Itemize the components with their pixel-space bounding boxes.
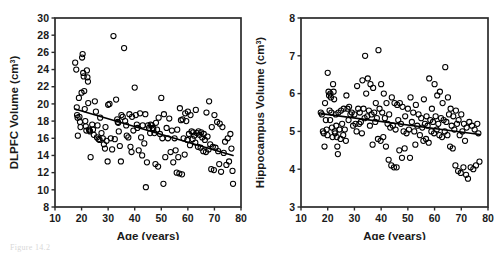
data-point xyxy=(373,100,378,105)
data-point xyxy=(427,76,432,81)
data-point xyxy=(337,127,342,132)
data-point xyxy=(462,138,467,143)
data-point xyxy=(132,85,137,90)
y-tick-label: 7 xyxy=(289,50,295,62)
data-point xyxy=(397,148,402,153)
data-point xyxy=(370,142,375,147)
data-point xyxy=(173,148,178,153)
data-point xyxy=(429,106,434,111)
data-point xyxy=(381,91,386,96)
data-point xyxy=(230,181,235,186)
data-point xyxy=(461,165,466,170)
data-point xyxy=(408,95,413,100)
y-tick-label: 6 xyxy=(289,87,295,99)
figure-container: 810121416182022242628301020304050607080A… xyxy=(0,0,496,261)
y-tick-label: 12 xyxy=(37,166,49,178)
data-point-group xyxy=(318,48,482,182)
data-point xyxy=(95,123,100,128)
y-tick-label: 10 xyxy=(37,184,49,196)
data-point xyxy=(367,123,372,128)
data-point xyxy=(344,93,349,98)
data-point xyxy=(477,159,482,164)
data-point xyxy=(230,168,235,173)
data-point xyxy=(153,120,158,125)
data-point xyxy=(159,95,164,100)
data-point xyxy=(443,65,448,70)
data-point xyxy=(330,82,335,87)
x-tick-label: 10 xyxy=(49,212,61,224)
data-point xyxy=(143,185,148,190)
data-point xyxy=(419,116,424,121)
data-point xyxy=(407,155,412,160)
data-point xyxy=(400,104,405,109)
data-point xyxy=(475,121,480,126)
data-point xyxy=(128,144,133,149)
data-point xyxy=(175,127,180,132)
data-point xyxy=(99,131,104,136)
panel-hippocampus: 3456781020304050607080Age (years)Hippoca… xyxy=(248,0,496,240)
data-point xyxy=(433,114,438,119)
data-point xyxy=(354,129,359,134)
data-point xyxy=(212,112,217,117)
data-point xyxy=(193,107,198,112)
data-point xyxy=(161,112,166,117)
data-point xyxy=(83,118,88,123)
data-point xyxy=(360,78,365,83)
data-point xyxy=(448,106,453,111)
data-point xyxy=(217,161,222,166)
data-point xyxy=(335,151,340,156)
x-axis-title: Age (years) xyxy=(363,230,426,240)
data-point xyxy=(163,155,168,160)
y-axis-title: DLPFC Volume (cm3) xyxy=(8,56,20,170)
data-point xyxy=(340,121,345,126)
data-point xyxy=(364,91,369,96)
data-point xyxy=(453,163,458,168)
data-point xyxy=(432,82,437,87)
x-tick-label: 50 xyxy=(155,212,167,224)
data-point xyxy=(116,129,121,134)
data-point xyxy=(84,68,89,73)
data-point xyxy=(412,129,417,134)
y-tick-label: 14 xyxy=(37,149,49,161)
scatter-panel-group: 810121416182022242628301020304050607080A… xyxy=(0,0,496,240)
hippocampus-scatter-plot: 3456781020304050607080Age (years)Hippoca… xyxy=(248,0,496,240)
data-point xyxy=(413,102,418,107)
data-point xyxy=(80,51,85,56)
data-point xyxy=(90,122,95,127)
data-point xyxy=(437,89,442,94)
y-tick-label: 18 xyxy=(37,115,49,127)
y-tick-label: 26 xyxy=(37,46,49,58)
data-point xyxy=(207,99,212,104)
data-point xyxy=(143,112,148,117)
figure-caption: Figure 14.2 xyxy=(10,243,50,252)
data-point xyxy=(389,95,394,100)
data-point xyxy=(110,147,115,152)
x-tick-label: 30 xyxy=(349,212,361,224)
data-point xyxy=(142,141,147,146)
x-tick-label: 10 xyxy=(295,212,307,224)
data-point xyxy=(459,112,464,117)
data-point xyxy=(355,83,360,88)
data-point xyxy=(93,109,98,114)
data-point xyxy=(402,146,407,151)
data-point xyxy=(168,149,173,154)
data-point xyxy=(343,138,348,143)
data-point xyxy=(160,136,165,141)
data-point xyxy=(171,160,176,165)
x-axis-title: Age (years) xyxy=(117,230,180,240)
data-point xyxy=(426,140,431,145)
data-point xyxy=(156,115,161,120)
data-point xyxy=(411,110,416,115)
data-point xyxy=(129,149,134,154)
data-point xyxy=(167,116,172,121)
x-tick-label: 70 xyxy=(455,212,467,224)
y-tick-label: 24 xyxy=(37,63,49,75)
data-point xyxy=(136,148,141,153)
panel-dlpfc: 810121416182022242628301020304050607080A… xyxy=(0,0,248,240)
data-point xyxy=(73,60,78,65)
data-point xyxy=(409,119,414,124)
data-point xyxy=(103,125,108,130)
data-point xyxy=(440,100,445,105)
data-point xyxy=(140,153,145,158)
x-tick-label: 40 xyxy=(375,212,387,224)
